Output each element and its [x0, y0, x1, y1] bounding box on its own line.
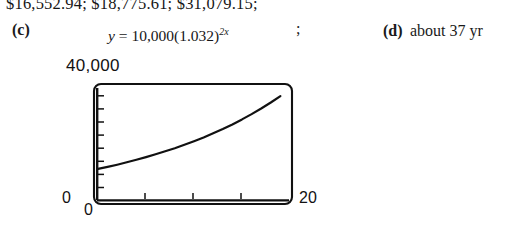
equation-coefficient: 10,000	[131, 27, 174, 44]
equation-part-c: y = 10,000(1.032)2x	[108, 27, 229, 45]
y-axis-max-label: 40,000	[66, 56, 120, 76]
plot-svg	[92, 82, 294, 206]
plot-area	[92, 82, 294, 206]
graph-figure: 40,000	[62, 56, 312, 236]
equation-lhs: y	[108, 27, 115, 44]
equation-separator: ;	[296, 20, 300, 38]
equation-exponent: 2x	[219, 26, 228, 37]
part-c-label: (c)	[12, 21, 30, 39]
equation-equals: =	[119, 27, 128, 44]
equation-base: 1.032	[179, 27, 214, 44]
y-axis-zero-label: 0	[62, 189, 71, 207]
answer-key-page: $16,552.94; $18,775.61; $31,079.15; (c) …	[0, 0, 525, 240]
plot-frame	[94, 84, 292, 204]
part-d-answer-text: about 37 yr	[410, 22, 483, 40]
previous-answer-line: $16,552.94; $18,775.61; $31,079.15;	[6, 0, 258, 14]
x-axis-max-label: 20	[299, 189, 317, 207]
x-axis-zero-label: 0	[84, 201, 93, 219]
part-d-label: (d)	[383, 22, 403, 40]
